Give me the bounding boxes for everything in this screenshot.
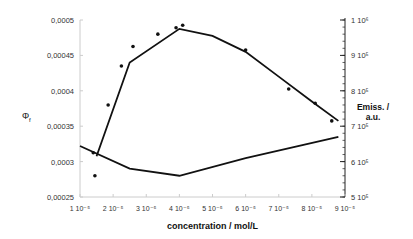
x-axis-label: concentration / mol/L xyxy=(167,221,259,231)
x-tick-label: 3 10⁻⁵ xyxy=(136,205,157,212)
y-right-tick-label: 5 10⁵ xyxy=(351,193,369,202)
data-point xyxy=(120,64,124,68)
x-tick-label: 8 10⁻⁵ xyxy=(302,205,323,212)
y-left-tick-label: 0,0005 xyxy=(51,16,74,25)
chart-svg: 1 10⁻⁵2 10⁻⁵3 10⁻⁵4 10⁻⁵5 10⁻⁵6 10⁻⁵7 10… xyxy=(0,0,413,239)
x-tick-label: 5 10⁻⁵ xyxy=(202,205,223,212)
y-right-tick-label: 1 10⁶ xyxy=(351,16,369,25)
y-right-tick-label: 9 10⁵ xyxy=(351,51,369,60)
x-tick-label: 4 10⁻⁵ xyxy=(169,205,190,212)
y-right-tick-label: 6 10⁵ xyxy=(351,158,369,167)
data-point xyxy=(181,24,185,28)
data-point xyxy=(313,101,317,105)
svg-text:f: f xyxy=(29,117,31,123)
y-left-tick-label: 0,00025 xyxy=(47,193,74,202)
x-tick-label: 2 10⁻⁵ xyxy=(103,205,124,212)
x-tick-label: 7 10⁻⁵ xyxy=(268,205,289,212)
data-point xyxy=(244,48,248,52)
y-left-tick-label: 0,00045 xyxy=(47,51,74,60)
x-tick-label: 6 10⁻⁵ xyxy=(235,205,256,212)
x-tick-label: 1 10⁻⁵ xyxy=(70,205,91,212)
y-right-tick-label: 7 10⁵ xyxy=(351,122,369,131)
series-line xyxy=(80,137,338,176)
data-point xyxy=(93,174,97,178)
x-tick-label: 9 10⁻⁵ xyxy=(335,205,356,212)
data-point xyxy=(330,119,334,123)
y-left-tick-label: 0,00035 xyxy=(47,122,74,131)
data-point xyxy=(156,32,160,36)
data-point xyxy=(106,103,110,107)
data-point xyxy=(131,45,135,49)
data-point xyxy=(174,26,178,30)
y-right-tick-label: 8 10⁵ xyxy=(351,87,369,96)
svg-text:a.u.: a.u. xyxy=(366,112,381,122)
y-left-tick-label: 0,0004 xyxy=(51,87,74,96)
chart: 1 10⁻⁵2 10⁻⁵3 10⁻⁵4 10⁻⁵5 10⁻⁵6 10⁻⁵7 10… xyxy=(0,0,413,239)
data-point xyxy=(287,87,291,91)
y-left-tick-label: 0,0003 xyxy=(51,158,74,167)
y-right-axis-label: Emiss. / xyxy=(357,102,390,112)
